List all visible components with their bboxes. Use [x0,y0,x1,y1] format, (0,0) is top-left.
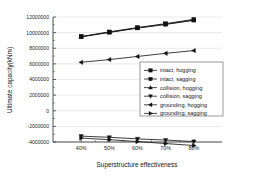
x-tick-label: 50% [104,145,115,151]
legend-label: grounding, sagging [160,110,207,116]
x-tick-label: 70% [160,145,171,151]
data-point-marker [149,77,152,80]
legend-label: intact, sagging [160,76,195,82]
y-tick-label: 4000000 [29,76,49,82]
y-axis-title: Ultimate capacity(kNm) [6,47,14,113]
legend-label: collision, hogging [160,85,202,91]
legend-label: intact, hogging [160,67,196,73]
y-tick-label: 6000000 [29,61,49,67]
y-tick-label: 8000000 [29,45,49,51]
x-axis-title: Superstructure effectiveness [97,161,178,169]
chart-legend[interactable]: intact, hoggingintact, saggingcollision,… [140,62,223,116]
chart-figure: 1200000010000000800000060000004000000200… [0,0,256,176]
y-tick-label: 2000000 [29,92,49,98]
y-tick-label: 10000000 [26,30,49,36]
y-tick-label: -2000000 [27,123,49,129]
x-tick-label: 40% [76,145,87,151]
y-tick-label: 0 [46,108,49,114]
line-chart: 1200000010000000800000060000004000000200… [0,0,256,176]
legend-label: grounding, hogging [160,102,207,108]
y-tick-label: -4000000 [27,139,49,145]
y-axis-tick-labels: 1200000010000000800000060000004000000200… [26,14,49,145]
legend-label: collision, sagging [160,93,202,99]
x-tick-label: 60% [132,145,143,151]
data-point-marker [149,69,152,72]
y-tick-label: 12000000 [26,14,49,20]
